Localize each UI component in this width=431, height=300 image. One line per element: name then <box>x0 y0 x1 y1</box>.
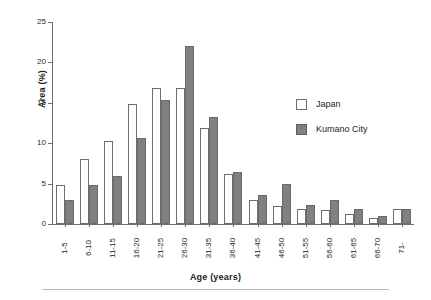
bar-japan[interactable] <box>128 104 137 224</box>
x-tick-mark <box>161 224 162 227</box>
bar-japan[interactable] <box>249 200 258 224</box>
x-tick-label: 36-40 <box>229 238 237 258</box>
bar-japan[interactable] <box>321 210 330 224</box>
x-tick-mark <box>137 224 138 227</box>
y-tick-mark <box>48 143 52 144</box>
bar-japan[interactable] <box>176 88 185 224</box>
x-tick-mark <box>209 224 210 227</box>
x-tick-mark <box>113 224 114 227</box>
x-tick-cell: 6-10 <box>77 228 101 268</box>
x-tick-cell: 46-50 <box>270 228 294 268</box>
bar-group <box>197 22 221 224</box>
x-tick-mark <box>282 224 283 227</box>
bar-japan[interactable] <box>80 159 89 224</box>
x-tick-label: 61-65 <box>350 238 358 258</box>
x-tick-mark <box>258 224 259 227</box>
bar-japan[interactable] <box>152 88 161 224</box>
x-tick-cell: 36-40 <box>221 228 245 268</box>
x-tick-mark <box>233 224 234 227</box>
bar-group <box>221 22 245 224</box>
x-tick-label: 31-35 <box>205 238 213 258</box>
y-tick-label: 15 <box>22 99 46 107</box>
x-tick-label: 21-25 <box>157 238 165 258</box>
y-tick-label: 20 <box>22 58 46 66</box>
bar-chart-figure: Area (%) 0510152025 1-56-1011-1516-2021-… <box>0 0 431 300</box>
bar-kumano-city[interactable] <box>258 195 267 224</box>
legend-item[interactable]: Japan <box>296 98 424 110</box>
x-tick-cell: 11-15 <box>101 228 125 268</box>
x-tick-cell: 21-25 <box>149 228 173 268</box>
y-tick-mark <box>48 184 52 185</box>
legend-label: Japan <box>316 100 341 109</box>
y-tick-mark <box>48 103 52 104</box>
bar-group <box>101 22 125 224</box>
x-tick-cell: 26-30 <box>173 228 197 268</box>
y-tick-label: 0 <box>22 220 46 228</box>
x-tick-cell: 66-70 <box>366 228 390 268</box>
bar-kumano-city[interactable] <box>161 100 170 224</box>
legend-item[interactable]: Kumano City <box>296 123 424 135</box>
bar-japan[interactable] <box>56 185 65 224</box>
bar-group <box>246 22 270 224</box>
bar-group <box>53 22 77 224</box>
bar-kumano-city[interactable] <box>65 200 74 224</box>
bar-group <box>77 22 101 224</box>
x-tick-cell: 16-20 <box>125 228 149 268</box>
y-tick-mark <box>48 62 52 63</box>
bar-kumano-city[interactable] <box>330 200 339 224</box>
x-tick-cell: 31-35 <box>197 228 221 268</box>
bar-group <box>149 22 173 224</box>
x-tick-cell: 71- <box>390 228 414 268</box>
x-tick-mark <box>306 224 307 227</box>
x-tick-label: 16-20 <box>133 238 141 258</box>
bar-japan[interactable] <box>393 209 402 224</box>
x-tick-label: 11-15 <box>109 238 117 258</box>
x-tick-cell: 61-65 <box>342 228 366 268</box>
legend-label: Kumano City <box>316 125 368 134</box>
legend-swatch-kumano <box>296 124 307 135</box>
x-tick-label: 71- <box>398 242 406 254</box>
x-tick-label: 6-10 <box>85 240 93 256</box>
bar-japan[interactable] <box>345 214 354 224</box>
x-tick-label: 66-70 <box>374 238 382 258</box>
x-axis-title: Age (years) <box>0 272 431 282</box>
bar-group <box>270 22 294 224</box>
legend-swatch-japan <box>296 99 307 110</box>
bar-kumano-city[interactable] <box>306 205 315 224</box>
x-tick-mark <box>354 224 355 227</box>
bar-kumano-city[interactable] <box>209 117 218 224</box>
y-tick-mark <box>48 22 52 23</box>
x-tick-cell: 41-45 <box>246 228 270 268</box>
bar-group <box>173 22 197 224</box>
bar-kumano-city[interactable] <box>354 209 363 224</box>
bar-kumano-city[interactable] <box>282 184 291 224</box>
bar-kumano-city[interactable] <box>402 209 411 224</box>
y-tick-label: 25 <box>22 18 46 26</box>
bar-kumano-city[interactable] <box>378 216 387 224</box>
bar-kumano-city[interactable] <box>89 185 98 224</box>
x-tick-label: 51-55 <box>302 238 310 258</box>
x-tick-cell: 51-55 <box>294 228 318 268</box>
y-tick-mark <box>48 224 52 225</box>
bar-kumano-city[interactable] <box>113 176 122 224</box>
bar-japan[interactable] <box>224 174 233 224</box>
y-tick-label: 10 <box>22 139 46 147</box>
x-tick-label: 56-60 <box>326 238 334 258</box>
x-tick-mark <box>89 224 90 227</box>
bar-group <box>125 22 149 224</box>
x-tick-label: 41-45 <box>254 238 262 258</box>
bar-japan[interactable] <box>297 209 306 224</box>
bar-kumano-city[interactable] <box>233 172 242 224</box>
bar-japan[interactable] <box>369 218 378 224</box>
bar-kumano-city[interactable] <box>137 138 146 224</box>
x-tick-cell: 56-60 <box>318 228 342 268</box>
bar-japan[interactable] <box>104 141 113 224</box>
x-tick-label: 1-5 <box>61 242 69 254</box>
x-axis-tick-labels: 1-56-1011-1516-2021-2526-3031-3536-4041-… <box>53 228 414 268</box>
x-tick-label: 46-50 <box>278 238 286 258</box>
x-tick-mark <box>185 224 186 227</box>
bar-japan[interactable] <box>273 206 282 224</box>
bar-kumano-city[interactable] <box>185 46 194 224</box>
bar-japan[interactable] <box>200 128 209 224</box>
legend: JapanKumano City <box>296 98 424 148</box>
